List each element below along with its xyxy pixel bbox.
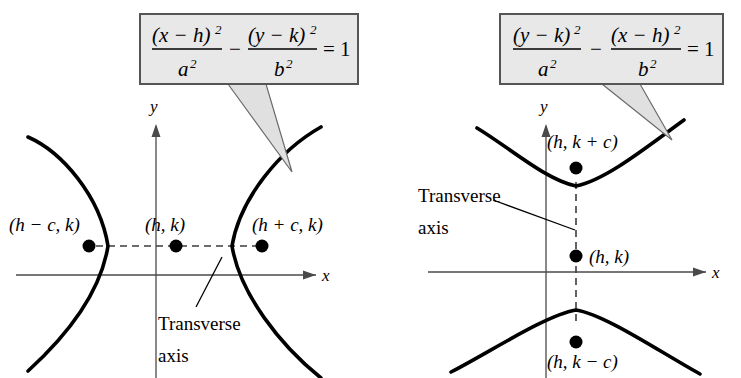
left-center-label: (h, k)	[145, 214, 185, 236]
right-focus-label: (h + c, k)	[252, 214, 323, 236]
upper-branch-curve	[477, 120, 684, 186]
right-panel: x y (h, k + c) (h, k) (h, k − c) Transve…	[418, 14, 723, 378]
right-y-axis-label: y	[538, 97, 548, 116]
left-focus-label: (h − c, k)	[9, 214, 80, 236]
upper-focus-dot	[570, 162, 583, 175]
left-callout-tail	[228, 84, 292, 172]
left-eq-denominator-2: b	[274, 57, 285, 81]
left-eq-numerator-2: (y − k)	[248, 23, 305, 47]
lower-focus-label: (h, k − c)	[547, 351, 618, 373]
lower-focus-dot	[570, 336, 583, 349]
left-eq-numerator-1: (x − h)	[152, 23, 210, 47]
right-eq-numerator-1: (y − k)	[513, 23, 570, 47]
right-transverse-leader	[493, 200, 575, 230]
left-eq-denominator-2-exponent: 2	[286, 56, 293, 71]
right-eq-denominator-1: a	[538, 57, 549, 81]
right-eq-equals-one: = 1	[687, 37, 715, 61]
right-branch-curve	[232, 127, 321, 378]
hyperbola-figure: x y (h − c, k) (h, k) (h + c, k) Transve…	[0, 0, 741, 378]
right-eq-numerator-2-exponent: 2	[674, 22, 681, 37]
right-eq-denominator-2: b	[638, 57, 649, 81]
left-eq-denominator-1-exponent: 2	[190, 56, 197, 71]
upper-focus-label: (h, k + c)	[547, 131, 618, 153]
left-transverse-label-line1: Transverse	[158, 313, 241, 334]
right-center-dot	[570, 250, 583, 263]
right-x-axis-arrowhead	[693, 268, 706, 277]
right-center-label: (h, k)	[589, 246, 629, 268]
right-focus-dot	[256, 240, 269, 253]
left-panel: x y (h − c, k) (h, k) (h + c, k) Transve…	[9, 14, 358, 378]
left-center-dot	[170, 240, 183, 253]
right-x-axis-label: x	[711, 263, 720, 282]
right-eq-denominator-2-exponent: 2	[650, 56, 657, 71]
left-x-axis-arrowhead	[303, 271, 316, 280]
left-transverse-leader	[196, 257, 222, 307]
right-transverse-label-line2: axis	[418, 217, 449, 238]
left-y-axis-label: y	[148, 97, 158, 116]
right-eq-denominator-1-exponent: 2	[550, 56, 557, 71]
right-eq-numerator-1-exponent: 2	[574, 22, 581, 37]
left-transverse-label-line2: axis	[158, 345, 189, 366]
right-transverse-label-line1: Transverse	[418, 185, 501, 206]
right-eq-operator: −	[590, 37, 602, 61]
right-eq-numerator-2: (x − h)	[611, 23, 669, 47]
left-x-axis-label: x	[321, 266, 330, 285]
left-eq-denominator-1: a	[178, 57, 189, 81]
left-y-axis-arrowhead	[152, 124, 161, 137]
left-eq-equals-one: = 1	[323, 37, 351, 61]
left-focus-dot	[83, 240, 96, 253]
left-eq-numerator-1-exponent: 2	[215, 22, 222, 37]
left-branch-curve	[28, 137, 108, 371]
left-eq-operator: −	[229, 37, 241, 61]
left-eq-numerator-2-exponent: 2	[310, 22, 317, 37]
